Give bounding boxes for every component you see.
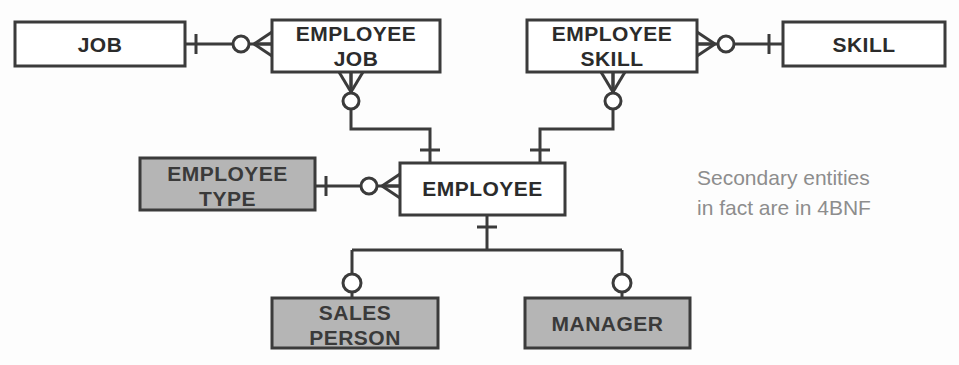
entity-box-sales-person[interactable] [272,298,438,348]
entity-box-employee-job[interactable] [272,20,440,72]
relationship-employee-skill-employee [530,72,625,163]
entity-box-skill[interactable] [783,22,945,66]
cardinality-zero-circle [718,36,734,52]
entity-box-job[interactable] [15,22,185,66]
relationship-employee-subtypes [343,215,631,298]
cardinality-zero-circle [361,178,377,194]
annotation-secondary-entities: Secondary entities in fact are in 4BNF [697,163,871,223]
cardinality-zero-circle [343,274,361,292]
entity-box-employee-type[interactable] [140,158,315,210]
cardinality-many-crowsfoot [601,72,625,92]
cardinality-many-crowsfoot [339,72,363,92]
cardinality-zero-circle [343,93,359,109]
relationship-job-employee-job [185,32,272,56]
entity-box-employee-skill[interactable] [527,20,697,72]
entity-box-manager[interactable] [525,298,690,348]
relationship-employee-job-employee [339,72,440,163]
cardinality-zero-circle [605,93,621,109]
erd-canvas: JOB EMPLOYEE JOB EMPLOYEE SKILL SKILL EM… [0,0,959,365]
cardinality-zero-circle [233,36,249,52]
cardinality-many-crowsfoot [254,32,272,56]
cardinality-many-crowsfoot [697,32,715,56]
cardinality-zero-circle [613,274,631,292]
entity-box-employee[interactable] [400,163,565,215]
relationship-employee-skill-skill [697,32,783,56]
relationship-employee-type-employee [315,174,400,198]
cardinality-many-crowsfoot [382,174,400,198]
